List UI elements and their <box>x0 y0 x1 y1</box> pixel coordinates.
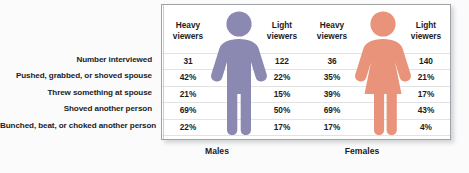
table-cell: 17% <box>260 119 304 135</box>
column-header-line2: viewers <box>310 31 354 42</box>
table-cell: 69% <box>166 102 210 118</box>
column-header-line2: viewers <box>166 31 210 42</box>
column-header-line1: Light <box>404 20 448 31</box>
column-header-line1: Heavy <box>310 20 354 31</box>
table-cell: 43% <box>404 102 448 118</box>
table-cell: 39% <box>310 86 354 102</box>
column-header-line2: viewers <box>260 31 304 42</box>
table-cell: 140 <box>404 53 448 69</box>
table-cell: 22% <box>260 69 304 85</box>
table-cell: 22% <box>166 119 210 135</box>
row-label: Number interviewed <box>0 52 157 68</box>
table-cell: 21% <box>166 86 210 102</box>
data-panel-inner: Heavy viewers Light viewers Heavy viewer… <box>162 5 450 139</box>
table-cell: 36 <box>310 53 354 69</box>
table-cell: 31 <box>166 53 210 69</box>
grid-line <box>163 5 164 139</box>
table-cell: 4% <box>404 119 448 135</box>
data-panel: Heavy viewers Light viewers Heavy viewer… <box>161 4 451 140</box>
column-header-line1: Light <box>260 20 304 31</box>
table-cell: 122 <box>260 53 304 69</box>
group-caption-females: Females <box>322 146 402 156</box>
table-cell: 35% <box>310 69 354 85</box>
grid-line <box>162 135 450 136</box>
row-label: Threw something at spouse <box>0 85 157 101</box>
column-header-males-heavy: Heavy viewers <box>166 20 210 41</box>
table-cell: 17% <box>310 119 354 135</box>
table-cell: 17% <box>404 86 448 102</box>
column-header-females-heavy: Heavy viewers <box>310 20 354 41</box>
row-label: Bunched, beat, or choked another person <box>0 118 157 134</box>
row-label: Pushed, grabbed, or shoved spouse <box>0 68 157 84</box>
group-caption-males: Males <box>177 146 257 156</box>
column-header-line2: viewers <box>404 31 448 42</box>
table-cell: 15% <box>260 86 304 102</box>
row-label-column: Number interviewed Pushed, grabbed, or s… <box>0 52 157 134</box>
column-header-males-light: Light viewers <box>260 20 304 41</box>
column-header-females-light: Light viewers <box>404 20 448 41</box>
column-header-line1: Heavy <box>166 20 210 31</box>
table-cell: 42% <box>166 69 210 85</box>
row-label: Shoved another person <box>0 101 157 117</box>
table-cell: 69% <box>310 102 354 118</box>
table-cell: 50% <box>260 102 304 118</box>
statistics-table-figure: Number interviewed Pushed, grabbed, or s… <box>0 0 469 173</box>
table-cell: 21% <box>404 69 448 85</box>
